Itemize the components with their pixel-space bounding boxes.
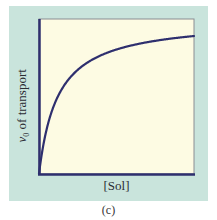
y-axis-label-symbol: v (14, 137, 29, 143)
x-axis-label: [Sol] (39, 178, 194, 194)
y-axis-label-text: of transport (14, 69, 29, 133)
plot-area (39, 19, 194, 174)
y-axis-label-subscript: 0 (23, 133, 32, 137)
y-axis-label: v0 of transport (12, 56, 34, 156)
figure-caption: (c) (0, 203, 217, 218)
